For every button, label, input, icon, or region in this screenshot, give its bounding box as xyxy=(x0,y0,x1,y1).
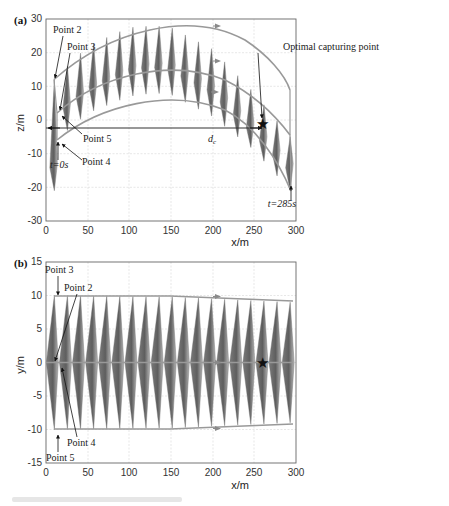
point5-label-a: Point 5 xyxy=(83,133,112,144)
svg-text:-30: -30 xyxy=(28,215,43,226)
dc-label: dc xyxy=(208,133,217,146)
optimal-label-a: Optimal capturing point xyxy=(283,41,379,52)
point2-label-b: Point 2 xyxy=(64,282,93,293)
x-ticks-a: 0 50 100 150 200 250 300 xyxy=(43,225,305,236)
snapshot-wedge xyxy=(102,37,110,105)
snapshot-wedge xyxy=(115,32,123,101)
y-axis-label-a: z/m xyxy=(14,114,26,132)
end-link-a xyxy=(290,90,291,191)
upper-boundary-b xyxy=(54,296,293,301)
snapshot-wedge xyxy=(50,80,58,191)
svg-text:0: 0 xyxy=(36,357,42,368)
x-axis-label-b: x/m xyxy=(231,479,249,491)
point3-label-a: Point 3 xyxy=(67,41,96,52)
svg-text:5: 5 xyxy=(36,323,42,334)
svg-text:150: 150 xyxy=(163,225,180,236)
lower-boundary-b xyxy=(54,424,293,429)
optimal-point-star-b: ★ xyxy=(256,354,269,371)
svg-text:15: 15 xyxy=(31,256,43,267)
snapshot-wedge xyxy=(142,26,150,94)
panel-a: dc ★ Optimal capturing point Point 2 Poi… xyxy=(14,13,379,248)
panel-label-b: (b) xyxy=(14,257,28,270)
snapshot-wedge xyxy=(155,26,163,93)
optimal-arrow-a xyxy=(258,53,262,118)
svg-text:250: 250 xyxy=(246,225,263,236)
snapshot-wedge xyxy=(194,42,202,109)
svg-text:-10: -10 xyxy=(28,148,43,159)
panel-label-a: (a) xyxy=(14,14,27,27)
svg-text:10: 10 xyxy=(31,81,43,92)
svg-text:100: 100 xyxy=(121,225,138,236)
x-axis-label-a: x/m xyxy=(231,236,249,248)
svg-text:-5: -5 xyxy=(33,390,42,401)
svg-text:0: 0 xyxy=(43,467,49,478)
y-axis-label-b: y/m xyxy=(14,356,26,374)
snapshot-wedge xyxy=(76,53,84,119)
point2-arrow-a xyxy=(55,36,63,78)
point4-label-b: Point 4 xyxy=(67,437,96,448)
y-ticks-b: 15 10 5 0 -5 -10 -15 xyxy=(28,256,43,468)
svg-text:-20: -20 xyxy=(28,182,43,193)
snapshot-wedge xyxy=(259,105,267,161)
point2-label-a: Point 2 xyxy=(53,24,82,35)
x-ticks-b: 0 50 100 150 200 250 300 xyxy=(43,467,305,478)
snapshot-wedge xyxy=(63,66,71,130)
t0-label-a: t=0s xyxy=(50,159,69,170)
svg-text:10: 10 xyxy=(31,290,43,301)
snapshot-wedge xyxy=(168,28,176,95)
svg-text:0: 0 xyxy=(36,114,42,125)
svg-text:30: 30 xyxy=(31,13,43,24)
svg-text:0: 0 xyxy=(43,225,49,236)
snapshot-wedge xyxy=(181,35,189,102)
y-ticks-a: 30 20 10 0 -10 -20 -30 xyxy=(28,13,43,226)
snapshot-wedge xyxy=(220,62,228,126)
svg-text:200: 200 xyxy=(205,225,222,236)
lower-trajectory-a xyxy=(57,100,291,191)
svg-text:-10: -10 xyxy=(28,424,43,435)
point3-label-b: Point 3 xyxy=(45,264,74,275)
svg-text:250: 250 xyxy=(246,467,263,478)
figure-caption-faint xyxy=(12,497,182,502)
point4-arrow-a xyxy=(62,144,82,160)
svg-text:-15: -15 xyxy=(28,457,43,468)
svg-text:150: 150 xyxy=(163,467,180,478)
tend-label-a: t=285s xyxy=(268,198,297,209)
svg-text:300: 300 xyxy=(288,225,305,236)
point4-label-a: Point 4 xyxy=(82,156,111,167)
svg-text:50: 50 xyxy=(82,225,94,236)
snapshot-wedge xyxy=(128,27,136,96)
svg-text:100: 100 xyxy=(121,467,138,478)
panel-b: ★ Point 3 Point 2 Point 4 Point 5 (b) 15… xyxy=(14,256,305,491)
svg-text:20: 20 xyxy=(31,47,43,58)
svg-text:50: 50 xyxy=(82,467,94,478)
svg-text:300: 300 xyxy=(288,467,305,478)
point5-label-b: Point 5 xyxy=(46,452,75,463)
svg-text:200: 200 xyxy=(205,467,222,478)
